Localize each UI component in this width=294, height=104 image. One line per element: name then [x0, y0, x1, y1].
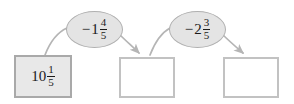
operation-bubble-2: − 2 3 5	[169, 11, 226, 48]
box-1-numerator: 1	[47, 64, 55, 76]
operation-bubble-1: − 1 4 5	[66, 11, 123, 48]
connector-box2-to-op2	[150, 28, 170, 55]
op-2-fraction: 3 5	[203, 17, 211, 41]
connector-box1-to-op1	[45, 28, 67, 55]
value-box-start: 10 1 5	[14, 55, 72, 98]
box-1-denominator: 5	[47, 76, 55, 89]
arrow-op2-to-box3	[221, 33, 243, 53]
answer-box-1[interactable]	[119, 57, 175, 98]
op-2-whole: 2	[194, 22, 203, 37]
op-2-sign: −	[185, 22, 194, 37]
box-1-whole: 10	[31, 69, 47, 84]
box-1-fraction: 1 5	[47, 64, 55, 88]
op-2-denominator: 5	[203, 29, 211, 42]
op-1-value: − 1 4 5	[82, 17, 107, 41]
op-1-denominator: 5	[100, 29, 108, 42]
op-1-fraction: 4 5	[100, 17, 108, 41]
answer-box-2[interactable]	[223, 57, 279, 98]
flow-diagram: 10 1 5 − 1 4 5 − 2	[0, 0, 294, 104]
op-1-numerator: 4	[100, 17, 108, 29]
op-1-whole: 1	[91, 22, 100, 37]
op-1-sign: −	[82, 22, 91, 37]
op-2-numerator: 3	[203, 17, 211, 29]
box-1-value: 10 1 5	[31, 64, 55, 88]
op-2-value: − 2 3 5	[185, 17, 210, 41]
